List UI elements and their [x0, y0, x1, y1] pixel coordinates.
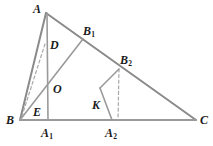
segment-K-A2-line [100, 88, 112, 120]
altitude-A-A1-line [47, 13, 48, 120]
label-A2-sub: 2 [113, 132, 117, 141]
geometry-figure: A B C D O E K B1 B2 A1 A2 [0, 0, 213, 146]
label-B: B [6, 114, 14, 126]
label-A: A [33, 3, 41, 15]
label-A2-base: A [105, 126, 113, 140]
label-B1-base: B [83, 24, 91, 38]
label-K: K [92, 99, 100, 111]
figure-canvas [0, 0, 213, 146]
label-A2: A2 [105, 127, 117, 139]
label-D: D [50, 39, 59, 51]
dashed-B2-A2-line [118, 69, 119, 120]
label-A1: A1 [41, 127, 53, 139]
label-B1-sub: 1 [91, 30, 95, 39]
label-B2: B2 [120, 54, 132, 66]
label-A1-sub: 1 [49, 132, 53, 141]
label-O: O [53, 83, 62, 95]
label-C: C [200, 114, 208, 126]
segment-B2-K-line [100, 69, 119, 88]
label-A1-base: A [41, 126, 49, 140]
label-B2-base: B [120, 53, 128, 67]
label-B1: B1 [83, 25, 95, 37]
label-E: E [33, 106, 41, 118]
label-B2-sub: 2 [128, 59, 132, 68]
